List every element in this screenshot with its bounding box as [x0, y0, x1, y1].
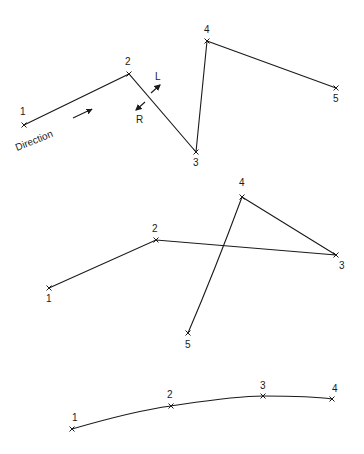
station-label: 4 [332, 383, 338, 394]
station-marker-icon [334, 86, 339, 91]
zigzag-path [24, 41, 336, 152]
right-arrow-icon [136, 102, 145, 110]
diagram-canvas: 12345 Direction L R 12345 1234 [0, 0, 364, 454]
direction-arrow-icon [73, 109, 92, 118]
station-label: 3 [260, 380, 266, 391]
station-label: 4 [239, 177, 245, 188]
station-label: 3 [193, 157, 199, 168]
smooth-curve-path [72, 396, 332, 429]
station-label: 2 [125, 56, 131, 67]
station-label: 4 [204, 24, 210, 35]
zigzag-traverse: 12345 Direction L R [14, 24, 339, 168]
crossing-segment-4-5 [188, 197, 242, 333]
station-marker-icon [186, 331, 191, 336]
left-label: L [155, 71, 161, 82]
station-marker-icon [47, 286, 52, 291]
crossing-path [49, 197, 336, 288]
station-marker-icon [240, 195, 245, 200]
station-label: 1 [46, 293, 52, 304]
station-marker-icon [22, 123, 27, 128]
right-label: R [136, 114, 143, 125]
station-label: 1 [72, 412, 78, 423]
crossing-traverse: 12345 [46, 177, 345, 350]
station-label: 1 [20, 106, 26, 117]
left-arrow-icon [151, 85, 160, 93]
station-label: 5 [185, 339, 191, 350]
station-label: 5 [333, 93, 339, 104]
station-label: 3 [339, 260, 345, 271]
station-label: 2 [167, 389, 173, 400]
station-label: 2 [152, 223, 158, 234]
direction-label: Direction [14, 128, 55, 153]
smooth-curve-traverse: 1234 [70, 380, 339, 432]
station-marker-icon [127, 72, 132, 77]
